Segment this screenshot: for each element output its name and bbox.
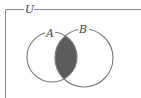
venn-diagram: U A B	[0, 0, 141, 98]
set-a-label: A	[45, 27, 54, 40]
set-b-label: B	[78, 23, 87, 36]
universe-label: U	[25, 3, 35, 16]
